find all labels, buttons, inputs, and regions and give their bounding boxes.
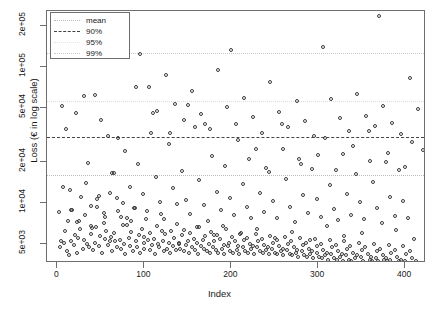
scatter-point bbox=[290, 230, 294, 234]
scatter-point bbox=[71, 261, 75, 262]
scatter-point bbox=[182, 118, 186, 122]
scatter-point bbox=[344, 253, 348, 257]
scatter-point bbox=[142, 241, 146, 245]
scatter-point bbox=[252, 252, 256, 256]
scatter-point bbox=[325, 224, 329, 228]
scatter-point bbox=[378, 247, 382, 251]
scatter-point bbox=[286, 125, 290, 129]
legend-label-mean: mean bbox=[86, 15, 106, 26]
scatter-point bbox=[386, 151, 390, 155]
x-tick-mark bbox=[230, 262, 231, 268]
scatter-point bbox=[349, 213, 353, 217]
scatter-point bbox=[157, 245, 161, 249]
scatter-point bbox=[255, 227, 259, 231]
scatter-point bbox=[74, 111, 78, 115]
scatter-point bbox=[319, 242, 323, 246]
scatter-point bbox=[116, 209, 120, 213]
scatter-point bbox=[100, 251, 104, 255]
scatter-point bbox=[118, 238, 122, 242]
scatter-point bbox=[320, 256, 324, 260]
scatter-point bbox=[64, 127, 68, 131]
scatter-point bbox=[303, 119, 307, 123]
scatter-point bbox=[195, 225, 199, 229]
scatter-point bbox=[403, 165, 407, 169]
y-tick-label: 1e+04 bbox=[17, 185, 27, 217]
scatter-point bbox=[186, 103, 190, 107]
scatter-point bbox=[108, 191, 112, 195]
scatter-point bbox=[184, 198, 188, 202]
scatter-point bbox=[175, 202, 179, 206]
chart-root: Loss (€ in log scale) 5e+031e+042e+045e+… bbox=[0, 0, 439, 312]
scatter-point bbox=[355, 253, 359, 257]
scatter-point bbox=[87, 245, 91, 249]
scatter-point bbox=[270, 247, 274, 251]
x-tick-mark bbox=[56, 262, 57, 268]
scatter-point bbox=[281, 247, 285, 251]
scatter-point bbox=[342, 234, 346, 238]
scatter-point bbox=[254, 232, 258, 236]
scatter-point bbox=[289, 239, 293, 243]
scatter-point bbox=[388, 258, 392, 262]
scatter-point bbox=[262, 210, 266, 214]
scatter-point bbox=[148, 248, 152, 252]
scatter-point bbox=[341, 152, 345, 156]
scatter-point bbox=[329, 252, 333, 256]
scatter-point bbox=[210, 154, 214, 158]
scatter-point bbox=[236, 244, 240, 248]
scatter-point bbox=[414, 261, 418, 262]
scatter-point bbox=[171, 186, 175, 190]
scatter-point bbox=[152, 237, 156, 241]
scatter-point bbox=[145, 209, 149, 213]
scatter-point bbox=[137, 233, 141, 237]
scatter-point bbox=[149, 131, 153, 135]
scatter-point bbox=[72, 243, 76, 247]
scatter-point bbox=[232, 213, 236, 217]
scatter-point bbox=[122, 242, 126, 246]
scatter-point bbox=[275, 216, 279, 220]
scatter-point bbox=[147, 85, 151, 89]
scatter-point bbox=[89, 204, 93, 208]
scatter-point bbox=[81, 247, 85, 251]
scatter-point bbox=[408, 261, 412, 262]
scatter-point bbox=[401, 244, 405, 248]
scatter-point bbox=[135, 245, 139, 249]
scatter-point bbox=[134, 239, 138, 243]
legend-label-q95: 95% bbox=[86, 37, 102, 48]
scatter-point bbox=[393, 214, 397, 218]
x-axis-title: Index bbox=[0, 288, 439, 299]
scatter-point bbox=[103, 237, 107, 241]
scatter-point bbox=[102, 221, 106, 225]
x-tick-label: 0 bbox=[54, 269, 59, 279]
scatter-point bbox=[167, 241, 171, 245]
scatter-point bbox=[348, 244, 352, 248]
scatter-point bbox=[216, 68, 220, 72]
scatter-point bbox=[187, 251, 191, 255]
scatter-point bbox=[268, 80, 272, 84]
scatter-point bbox=[175, 222, 179, 226]
scatter-point bbox=[103, 215, 107, 219]
scatter-point bbox=[199, 112, 203, 116]
scatter-point bbox=[208, 251, 212, 255]
scatter-point bbox=[273, 236, 277, 240]
legend-key-mean-icon bbox=[54, 20, 80, 21]
scatter-point bbox=[141, 192, 145, 196]
scatter-point bbox=[297, 157, 301, 161]
legend-key-q95-icon bbox=[54, 42, 80, 43]
scatter-point bbox=[186, 239, 190, 243]
scatter-point bbox=[119, 247, 123, 251]
scatter-point bbox=[227, 241, 231, 245]
scatter-point bbox=[98, 234, 102, 238]
scatter-point bbox=[167, 142, 171, 146]
scatter-point bbox=[400, 261, 404, 262]
scatter-point bbox=[146, 238, 150, 242]
scatter-point bbox=[190, 89, 194, 93]
scatter-point bbox=[354, 172, 358, 176]
scatter-point bbox=[260, 237, 264, 241]
scatter-point bbox=[249, 216, 253, 220]
scatter-point bbox=[95, 197, 99, 201]
legend-label-q99: 99% bbox=[86, 48, 102, 59]
scatter-point bbox=[136, 162, 140, 166]
scatter-point bbox=[83, 213, 87, 217]
scatter-point bbox=[165, 247, 169, 251]
legend-box: mean 90% 95% 99% bbox=[50, 12, 130, 59]
